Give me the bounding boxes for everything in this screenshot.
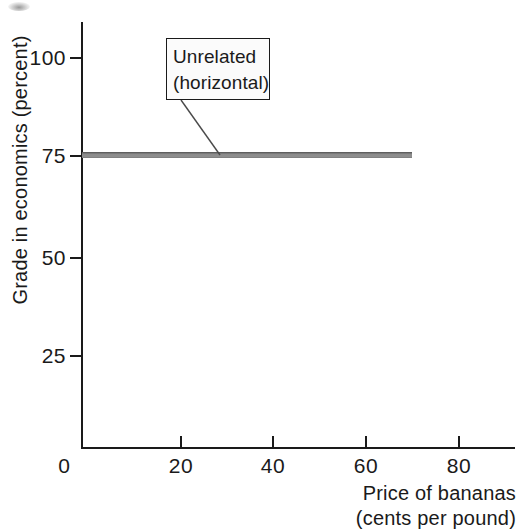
- x-tick-20: [180, 436, 182, 448]
- callout-leader-line: [170, 96, 226, 158]
- x-axis-title-line-2: (cents per pound): [356, 506, 516, 531]
- callout-line-1: Unrelated: [173, 44, 269, 70]
- x-tick-label-80: 80: [429, 455, 489, 476]
- y-tick-75: [70, 155, 82, 157]
- x-tick-label-20: 20: [151, 455, 211, 476]
- callout-line-2: (horizontal): [173, 70, 269, 96]
- x-tick-80: [458, 436, 460, 448]
- x-tick-60: [365, 436, 367, 448]
- x-axis-line: [81, 447, 515, 449]
- y-axis-line: [81, 22, 83, 449]
- y-tick-25: [70, 355, 82, 357]
- y-axis-title: Grade in economics (percent): [10, 25, 30, 315]
- x-tick-40: [272, 436, 274, 448]
- callout-box-unrelated: Unrelated (horizontal): [166, 38, 270, 100]
- chart-figure: 100 75 50 25 20 40 60 80 0 Unrelated (ho…: [0, 0, 524, 532]
- x-axis-title: Price of bananas (cents per pound): [356, 481, 516, 531]
- x-axis-title-line-1: Price of bananas: [356, 481, 516, 506]
- y-tick-100: [70, 57, 82, 59]
- series-line-unrelated: [82, 152, 412, 158]
- x-tick-label-60: 60: [336, 455, 396, 476]
- y-tick-50: [70, 257, 82, 259]
- x-tick-label-40: 40: [243, 455, 303, 476]
- origin-label: 0: [52, 455, 76, 476]
- y-tick-label-25: 25: [2, 345, 66, 366]
